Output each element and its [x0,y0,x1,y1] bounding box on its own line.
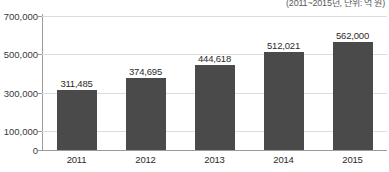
y-tick-label: 700,000 [2,11,38,22]
bar [57,90,97,150]
bar-group: 311,485 [42,16,111,150]
bar-group: 562,000 [318,16,387,150]
bar-value-label: 444,618 [198,53,231,64]
x-axis-labels: 20112012201320142015 [42,152,387,172]
y-tick-label: 100,000 [2,125,38,136]
y-tick-label: 0 [2,145,38,156]
plot-area: 311,485374,695444,618512,021562,000 [42,16,387,150]
bar [195,65,235,150]
bar [126,78,166,150]
bar-group: 374,695 [111,16,180,150]
x-tick-label: 2013 [180,154,249,165]
x-tick-label: 2015 [318,154,387,165]
gridline-0 [42,150,387,151]
y-tick-label: 300,000 [2,87,38,98]
bar-value-label: 374,695 [129,66,162,77]
bar-chart: (2011~2015년, 단위: 억 원) 0100,000300,000500… [0,0,389,172]
chart-subtitle: (2011~2015년, 단위: 억 원) [286,0,385,9]
x-tick-label: 2011 [42,154,111,165]
bar-value-label: 512,021 [267,40,300,51]
y-tick-label: 500,000 [2,49,38,60]
bar [333,42,373,150]
bar-group: 444,618 [180,16,249,150]
bar [264,52,304,150]
y-axis-labels: 0100,000300,000500,000700,000 [0,0,38,172]
bar-group: 512,021 [249,16,318,150]
x-tick-label: 2012 [111,154,180,165]
bar-value-label: 311,485 [60,78,92,89]
bar-value-label: 562,000 [336,30,369,41]
x-tick-label: 2014 [249,154,318,165]
bars-layer: 311,485374,695444,618512,021562,000 [42,16,387,150]
